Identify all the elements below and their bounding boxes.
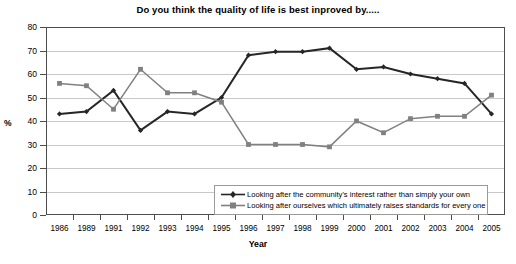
data-point-marker [273,142,278,147]
x-tick-mark [127,215,128,220]
legend-item-ourselves: Looking after ourselves which ultimately… [219,200,482,211]
data-point-marker [111,107,116,112]
x-tick-label: 2004 [455,224,473,233]
x-tick-mark [100,215,101,220]
data-point-marker [273,49,278,54]
x-tick-label: 1991 [104,224,122,233]
chart-title: Do you think the quality of life is best… [0,4,516,15]
x-tick-label: 2000 [347,224,365,233]
x-tick-mark [424,215,425,220]
data-point-marker [219,100,224,105]
x-tick-mark [73,215,74,220]
y-axis: % 01020304050607080 [0,0,46,242]
data-point-marker [300,49,305,54]
data-point-marker [462,114,467,119]
x-tick-mark [478,215,479,220]
data-point-marker [354,119,359,124]
x-tick-label: 2005 [482,224,500,233]
data-point-marker [381,64,386,69]
data-point-marker [192,90,197,95]
y-tick-label: 50 [28,93,37,103]
data-point-marker [84,83,89,88]
data-point-marker [138,67,143,72]
x-tick-label: 1986 [50,224,68,233]
data-point-marker [327,144,332,149]
x-tick-label: 2001 [374,224,392,233]
data-point-marker [435,114,440,119]
chart-container: Do you think the quality of life is best… [0,0,516,264]
y-tick-label: 40 [28,116,37,126]
data-point-marker [408,71,413,76]
x-tick-mark [181,215,182,220]
y-tick-label: 70 [28,46,37,56]
x-tick-label: 1997 [266,224,284,233]
x-tick-mark [397,215,398,220]
x-tick-label: 2003 [428,224,446,233]
x-tick-mark [370,215,371,220]
x-tick-label: 1995 [212,224,230,233]
chart-legend: Looking after the community's interest r… [214,185,488,215]
x-tick-label: 1998 [293,224,311,233]
data-point-marker [435,76,440,81]
legend-label-ourselves: Looking after ourselves which ultimately… [247,200,485,211]
x-tick-mark [208,215,209,220]
legend-marker-square-icon [219,200,247,211]
x-axis-title: Year [0,239,516,249]
data-point-marker [408,116,413,121]
x-tick-mark [262,215,263,220]
data-point-marker [165,90,170,95]
legend-marker-diamond-icon [219,189,247,200]
x-tick-label: 1989 [77,224,95,233]
x-tick-mark [289,215,290,220]
y-axis-title: % [4,118,12,128]
series-line [60,48,492,130]
data-point-marker [381,130,386,135]
y-tick-label: 20 [28,163,37,173]
x-tick-label: 1994 [185,224,203,233]
x-tick-label: 1999 [320,224,338,233]
y-tick-label: 0 [32,210,37,220]
x-tick-mark [235,215,236,220]
x-tick-label: 1996 [239,224,257,233]
x-tick-mark [154,215,155,220]
x-tick-mark [451,215,452,220]
data-point-marker [57,111,62,116]
data-point-marker [57,81,62,86]
y-tick-label: 30 [28,140,37,150]
data-point-marker [246,142,251,147]
x-tick-mark [343,215,344,220]
x-tick-label: 1993 [158,224,176,233]
y-tick-label: 60 [28,69,37,79]
x-tick-mark [316,215,317,220]
y-tick-mark [40,215,46,216]
y-tick-label: 80 [28,22,37,32]
data-point-marker [300,142,305,147]
data-point-marker [489,93,494,98]
legend-item-community: Looking after the community's interest r… [219,189,482,200]
y-tick-label: 10 [28,187,37,197]
legend-label-community: Looking after the community's interest r… [247,189,470,200]
x-tick-label: 1992 [131,224,149,233]
x-tick-label: 2002 [401,224,419,233]
